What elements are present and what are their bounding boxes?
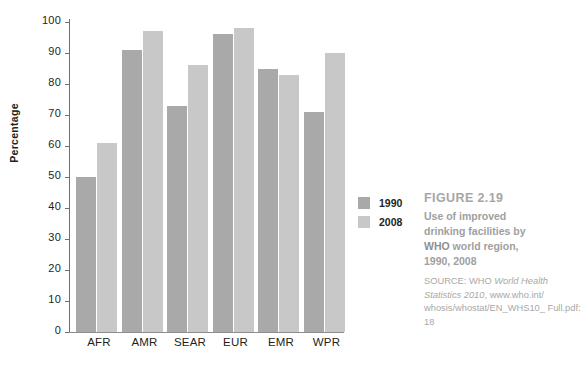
chart-legend: 19902008 bbox=[358, 193, 420, 231]
bar-wpr-1990[interactable] bbox=[304, 112, 324, 332]
y-axis-tick-label: 90 bbox=[48, 45, 61, 57]
bar-chart-plot: Percentage 1009080706050403020100 AFRAMR… bbox=[0, 0, 352, 373]
y-axis-tick-label: 40 bbox=[48, 200, 61, 212]
legend-swatch-2008 bbox=[358, 216, 370, 228]
bar-emr-1990[interactable] bbox=[258, 69, 278, 333]
bar-wpr-2008[interactable] bbox=[325, 53, 345, 332]
source-italic-2: Statistics 2010 bbox=[424, 290, 484, 300]
caption-line-3-bold: WHO bbox=[424, 240, 450, 252]
caption-line-2: drinking facilities by bbox=[424, 225, 526, 237]
bar-group bbox=[167, 19, 212, 332]
figure-caption-text: Use of improved drinking facilities by W… bbox=[424, 209, 584, 269]
figure-number-label: FIGURE 2.19 bbox=[424, 191, 584, 205]
y-axis-tick-label: 20 bbox=[48, 262, 61, 274]
source-rest-1: , www.who.int/ bbox=[484, 290, 543, 300]
bar-amr-2008[interactable] bbox=[143, 31, 163, 332]
bar-group bbox=[213, 19, 258, 332]
bar-afr-2008[interactable] bbox=[97, 143, 117, 332]
bar-amr-1990[interactable] bbox=[122, 50, 142, 332]
figure-caption: FIGURE 2.19 Use of improved drinking fac… bbox=[424, 191, 584, 329]
bar-emr-2008[interactable] bbox=[279, 75, 299, 332]
source-prefix: SOURCE: WHO bbox=[424, 276, 494, 286]
x-axis-label-wpr: WPR bbox=[299, 336, 355, 348]
y-axis-tick-label: 100 bbox=[42, 14, 61, 26]
bar-group bbox=[76, 19, 121, 332]
bar-group bbox=[258, 19, 303, 332]
y-axis-tick-label: 30 bbox=[48, 231, 61, 243]
bar-group bbox=[304, 19, 349, 332]
y-axis-tick-label: 50 bbox=[48, 169, 61, 181]
legend-item-2008[interactable]: 2008 bbox=[358, 212, 420, 231]
bar-eur-1990[interactable] bbox=[213, 34, 233, 332]
y-axis-tick-label: 10 bbox=[48, 293, 61, 305]
caption-line-3-rest: world region, bbox=[450, 240, 519, 252]
caption-line-1: Use of improved bbox=[424, 210, 506, 222]
legend-label-2008: 2008 bbox=[379, 216, 402, 228]
bar-sear-2008[interactable] bbox=[188, 65, 208, 332]
bar-eur-2008[interactable] bbox=[234, 28, 254, 332]
figure-2-19: Percentage 1009080706050403020100 AFRAMR… bbox=[0, 0, 588, 373]
source-italic-1: World Health bbox=[494, 276, 548, 286]
bars-layer: AFRAMRSEAREUREMRWPR bbox=[70, 0, 344, 373]
bar-afr-1990[interactable] bbox=[76, 177, 96, 332]
bar-group bbox=[122, 19, 167, 332]
legend-swatch-1990 bbox=[358, 197, 370, 209]
y-axis-tick-label: 70 bbox=[48, 107, 61, 119]
figure-source-text: SOURCE: WHO World Health Statistics 2010… bbox=[424, 275, 584, 329]
source-rest-2: whosis/whostat/EN_WHS10_ bbox=[424, 303, 545, 313]
y-axis-tick-label: 60 bbox=[48, 138, 61, 150]
legend-label-1990: 1990 bbox=[379, 197, 402, 209]
bar-sear-1990[interactable] bbox=[167, 106, 187, 332]
y-axis-tick-label: 80 bbox=[48, 76, 61, 88]
y-axis-tick-label: 0 bbox=[55, 324, 61, 336]
legend-item-1990[interactable]: 1990 bbox=[358, 193, 420, 212]
caption-line-4: 1990, 2008 bbox=[424, 255, 477, 267]
y-axis-ticks: 1009080706050403020100 bbox=[0, 0, 69, 373]
